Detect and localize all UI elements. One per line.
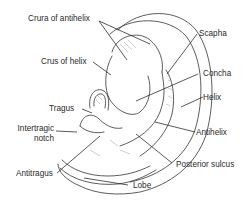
- leader-line-posterior-sulcus: [136, 134, 172, 163]
- label-tragus: Tragus: [49, 104, 74, 113]
- label-antitragus: Antitragus: [16, 169, 53, 178]
- leader-line-scapha: [167, 34, 197, 74]
- label-scapha: Scapha: [199, 29, 227, 38]
- label-crus-of-helix: Crus of helix: [41, 57, 87, 66]
- leader-line-concha: [136, 74, 198, 101]
- leader-line-tragus: [82, 109, 92, 113]
- ear-anatomy-figure: Crura of antihelix Crus of helix Tragus …: [0, 0, 251, 206]
- label-antihelix: Antihelix: [196, 128, 227, 137]
- label-crura-of-antihelix: Crura of antihelix: [28, 14, 90, 23]
- leader-line-antihelix: [155, 122, 195, 132]
- label-helix: Helix: [203, 93, 221, 102]
- leader-line-intertragic-notch: [56, 131, 77, 132]
- label-posterior-sulcus: Posterior sulcus: [176, 160, 234, 169]
- leader-line-crura-2: [99, 21, 127, 60]
- label-intertragic-notch-line1: Intertragic: [14, 124, 54, 133]
- label-lobe: Lobe: [133, 181, 151, 190]
- label-concha: Concha: [203, 69, 231, 78]
- label-intertragic-notch-line2: notch: [14, 134, 54, 143]
- leader-line-lobe: [84, 178, 128, 185]
- leader-line-antitragus: [57, 136, 100, 173]
